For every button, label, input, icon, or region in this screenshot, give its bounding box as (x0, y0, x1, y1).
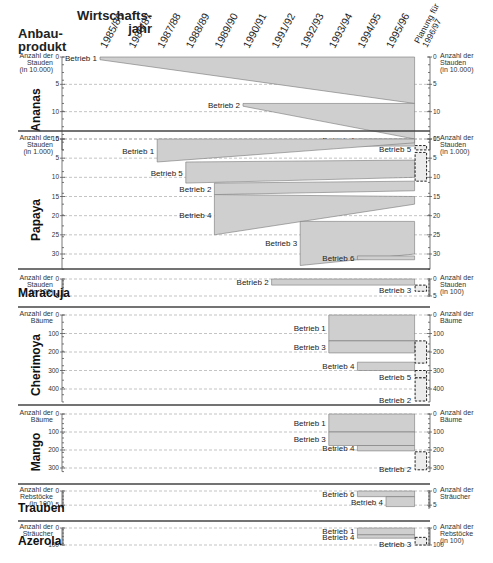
planning-area (415, 152, 427, 181)
year-label: 1994/95 (355, 11, 383, 50)
panel-mango: 00100100200200300300Anzahl derBäumeAnzah… (18, 405, 474, 474)
tick-label-left: 15 (52, 193, 60, 200)
farm-production-chart: Wirtschafts-jahrAnbau-produkt1985/861986… (0, 0, 493, 563)
tick-label-right: 0 (433, 275, 437, 282)
unit-label-right: (in 100) (440, 537, 464, 545)
betrieb-label: Betrieb 4 (351, 498, 384, 507)
tick-label-left: 300 (48, 367, 59, 374)
betrieb-label: Betrieb 3 (379, 286, 412, 295)
tick-label-right: 100 (433, 330, 444, 337)
unit-label-right: Stauden (440, 141, 466, 148)
tick-label-right: 0 (433, 311, 437, 318)
betrieb-label: Betrieb 2 (379, 396, 412, 405)
year-label: 1992/93 (297, 11, 325, 50)
product-label: Cherimoya (29, 334, 43, 396)
betrieb-label: Betrieb 4 (322, 362, 355, 371)
betrieb-label: Betrieb 4 (322, 444, 355, 453)
tick-label-left: 20 (52, 212, 60, 219)
betrieb-label: Betrieb 2 (379, 465, 412, 474)
product-label: Mango (29, 433, 43, 472)
betrieb-label: Betrieb 3 (265, 239, 298, 248)
panel-ananas: 005510101515Anzahl derStauden(in 10.000)… (20, 52, 475, 154)
chart-header: Wirtschafts-jahrAnbau-produkt1985/861986… (18, 2, 443, 54)
betrieb-area (272, 279, 415, 285)
tick-label-right: 400 (433, 385, 444, 392)
betrieb-label: Betrieb 4 (179, 211, 212, 220)
tick-label-right: 0 (433, 410, 437, 417)
tick-label-right: 5 (433, 292, 437, 299)
tick-label-left: 5 (55, 80, 59, 87)
tick-label-left: 30 (52, 250, 60, 257)
tick-label-right: 200 (433, 446, 444, 453)
betrieb-label: Betrieb 1 (122, 147, 155, 156)
unit-label-right: Stauden (440, 59, 466, 66)
planning-area (415, 371, 427, 378)
unit-label-left: Anzahl der (20, 523, 54, 530)
unit-label-right: Anzahl der (440, 274, 474, 281)
betrieb-label: Betrieb 6 (322, 254, 355, 263)
betrieb-area (357, 528, 414, 535)
betrieb-area (214, 181, 414, 194)
tick-label-right: 30 (433, 250, 441, 257)
tick-label-left: 10 (52, 108, 60, 115)
tick-label-left: 0 (55, 487, 59, 494)
panel-cherimoya: 00100100200200300300400400Anzahl derBäum… (18, 307, 474, 405)
betrieb-label: Betrieb 2 (179, 185, 212, 194)
betrieb-label: Betrieb 5 (379, 145, 412, 154)
tick-label-left: 100 (48, 330, 59, 337)
panel-azerola: 00100100Anzahl derSträucherAnzahl derReb… (18, 521, 474, 549)
tick-label-right: 0 (433, 487, 437, 494)
betrieb-label: Betrieb 3 (294, 343, 327, 352)
tick-label-left: 100 (48, 428, 59, 435)
tick-label-left: 0 (55, 410, 59, 417)
tick-label-right: 0 (433, 135, 437, 142)
tick-label-right: 15 (433, 193, 441, 200)
planning-area (415, 537, 427, 545)
unit-label-right: Sträucher (440, 493, 471, 500)
planning-area (415, 146, 427, 150)
betrieb-label: Betrieb 1 (65, 54, 98, 63)
unit-label-left: Bäume (31, 317, 53, 324)
betrieb-label: Betrieb 1 (294, 324, 327, 333)
betrieb-area (329, 315, 415, 341)
unit-label-right: Anzahl der (440, 523, 474, 530)
product-label: Azerola (18, 534, 62, 548)
tick-label-left: 5 (55, 154, 59, 161)
unit-label-right: Bäume (440, 416, 462, 423)
unit-label-right: Anzahl der (440, 52, 474, 59)
year-label: 1995/96 (383, 11, 411, 50)
year-label: 1987/88 (154, 11, 182, 50)
betrieb-area (386, 497, 415, 507)
unit-label-right: (in 100) (440, 288, 464, 296)
tick-label-right: 5 (433, 80, 437, 87)
betrieb-label: Betrieb 2 (237, 278, 270, 287)
tick-label-left: 200 (48, 348, 59, 355)
betrieb-label: Betrieb 3 (294, 435, 327, 444)
unit-label-left: Anzahl der (20, 310, 54, 317)
tick-label-left: 400 (48, 385, 59, 392)
tick-label-right: 200 (433, 348, 444, 355)
tick-label-right: 5 (433, 501, 437, 508)
betrieb-area (329, 414, 415, 432)
panel-maracuja: 0055Anzahl derStauden(in 100)Anzahl derS… (18, 269, 474, 300)
unit-label-left: Stauden (27, 59, 53, 66)
tick-label-left: 0 (55, 275, 59, 282)
chart-panels: 005510101515Anzahl derStauden(in 10.000)… (18, 52, 474, 549)
tick-label-left: 10 (52, 173, 60, 180)
year-label: 1991/92 (269, 11, 297, 50)
betrieb-label: Betrieb 3 (379, 540, 412, 549)
unit-label-right: Anzahl der (440, 310, 474, 317)
unit-label-right: Bäume (440, 317, 462, 324)
unit-label-right: (in 10.000) (440, 66, 473, 74)
tick-label-right: 25 (433, 231, 441, 238)
tick-label-left: 200 (48, 446, 59, 453)
planning-area (415, 378, 427, 401)
unit-label-right: Anzahl der (440, 409, 474, 416)
betrieb-label: Betrieb 2 (208, 101, 241, 110)
unit-label-left: Anzahl der (20, 409, 54, 416)
tick-label-right: 0 (433, 524, 437, 531)
tick-label-left: 0 (55, 135, 59, 142)
betrieb-label: Betrieb 5 (151, 169, 184, 178)
unit-label-left: Stauden (27, 141, 53, 148)
product-label: Papaya (29, 199, 43, 241)
